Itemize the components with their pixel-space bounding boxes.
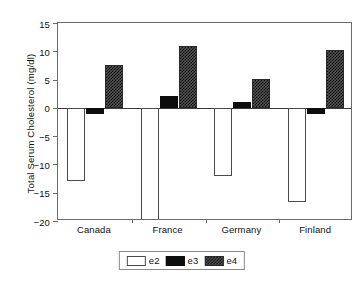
legend-entry-e2: e2 — [127, 255, 160, 266]
bar-e2-france — [141, 108, 159, 219]
y-axis-tick: 15 — [53, 23, 58, 24]
y-axis-tick: −20 — [53, 221, 58, 222]
x-axis-tick — [132, 219, 133, 223]
plot-clip-region — [58, 23, 351, 219]
legend-label-e2: e2 — [149, 255, 160, 266]
x-axis-tick — [206, 219, 207, 223]
bar-e3-france — [160, 96, 178, 108]
y-axis-tick-label: −5 — [39, 131, 50, 142]
y-axis-tick-label: −20 — [34, 216, 50, 227]
y-axis-tick-label: −10 — [34, 159, 50, 170]
legend-label-e3: e3 — [188, 255, 199, 266]
y-axis-tick: −5 — [53, 136, 58, 137]
y-axis-tick: 0 — [53, 108, 58, 109]
bar-e3-finland — [307, 108, 325, 114]
plot-area: 151050−5−10−15−20 — [57, 22, 352, 220]
x-axis-category-label: Finland — [270, 224, 360, 235]
bar-e4-finland — [326, 50, 344, 108]
y-axis-tick: −15 — [53, 193, 58, 194]
bar-e4-france — [179, 46, 197, 108]
x-axis-tick — [279, 219, 280, 223]
y-axis-tick-label: −15 — [34, 188, 50, 199]
bar-chart-figure: Total Serum Cholesterol (mg/dl) 151050−5… — [0, 0, 364, 284]
chart-legend: e2e3e4 — [119, 251, 245, 270]
legend-entry-e4: e4 — [204, 255, 237, 266]
bar-e3-canada — [86, 108, 104, 114]
y-axis-tick: 5 — [53, 80, 58, 81]
legend-label-e4: e4 — [226, 255, 237, 266]
y-axis-tick-label: 15 — [39, 18, 50, 29]
y-axis-tick: 10 — [53, 51, 58, 52]
bar-e2-germany — [214, 108, 232, 176]
legend-entry-e3: e3 — [166, 255, 199, 266]
bar-e3-germany — [233, 102, 251, 108]
y-axis-tick-label: 0 — [45, 103, 50, 114]
bar-e2-canada — [67, 108, 85, 182]
bar-e4-canada — [105, 65, 123, 107]
y-axis-tick: −10 — [53, 164, 58, 165]
bar-e4-germany — [252, 79, 270, 108]
legend-swatch-e4 — [204, 256, 223, 266]
legend-swatch-e2 — [127, 256, 146, 266]
y-axis-tick-label: 10 — [39, 46, 50, 57]
legend-swatch-e3 — [166, 256, 185, 266]
bar-e2-finland — [288, 108, 306, 202]
y-axis-tick-label: 5 — [45, 75, 50, 86]
